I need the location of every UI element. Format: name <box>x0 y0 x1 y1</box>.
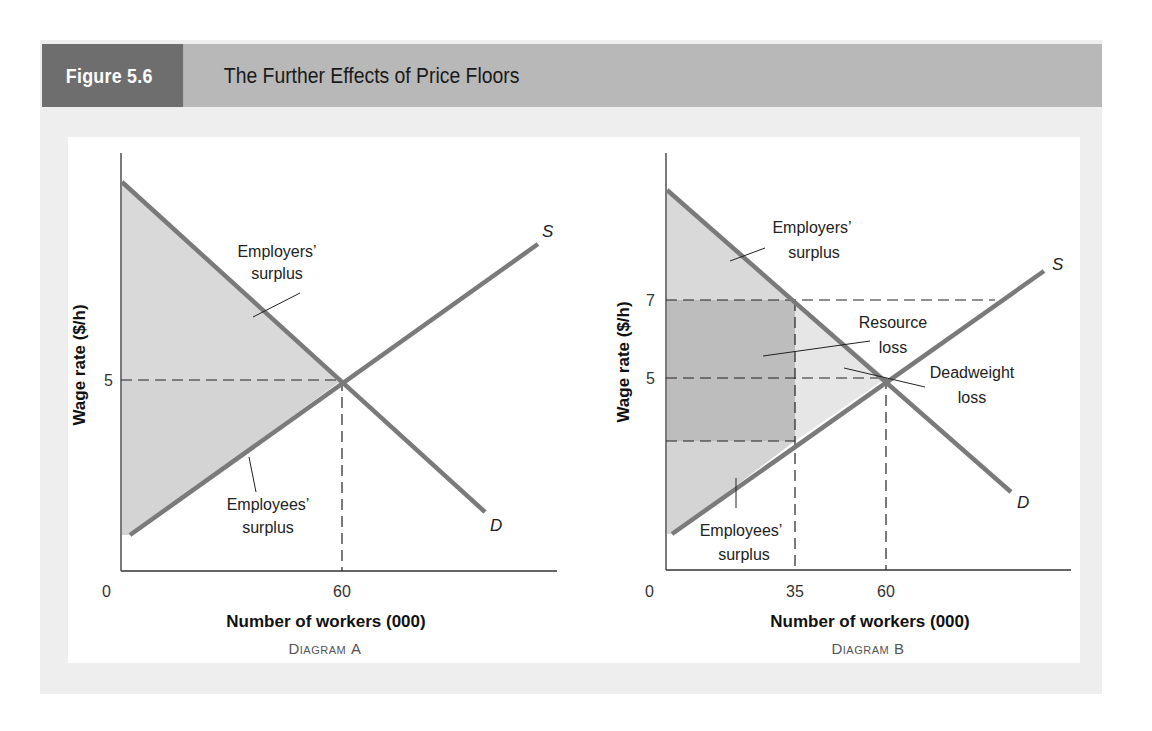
employers-label-2: surplus <box>251 265 303 282</box>
employers-label-1: Employers’ <box>237 243 316 260</box>
demand-label: D <box>490 516 502 535</box>
y-tick-5: 5 <box>646 370 655 387</box>
origin-label: 0 <box>102 583 111 600</box>
resource-loss-region <box>667 300 795 441</box>
y-axis-title: Wage rate ($/h) <box>70 304 89 425</box>
chart-canvas: S D Employers’ surplus Employees’ surplu… <box>0 0 1152 731</box>
employers-label-2: surplus <box>788 244 840 261</box>
supply-label: S <box>1052 255 1064 274</box>
employees-label-1: Employees’ <box>700 522 783 539</box>
employees-surplus-region <box>667 441 795 534</box>
deadweight-loss-label-1: Deadweight <box>930 364 1015 381</box>
deadweight-loss-label-2: loss <box>958 389 986 406</box>
employees-label-2: surplus <box>242 519 294 536</box>
y-axis-title: Wage rate ($/h) <box>614 301 633 422</box>
x-axis-title: Number of workers (000) <box>226 612 425 631</box>
x-tick-60: 60 <box>333 583 351 600</box>
y-tick-5: 5 <box>104 372 113 389</box>
resource-loss-label-1: Resource <box>859 314 928 331</box>
demand-label: D <box>1017 493 1029 512</box>
diagram-b: S D Employers’ surplus Resource loss Dea… <box>614 153 1071 657</box>
origin-label: 0 <box>645 583 654 600</box>
diagram-caption: Diagram A <box>288 640 361 657</box>
employees-label-1: Employees’ <box>227 496 310 513</box>
x-tick-60: 60 <box>877 583 895 600</box>
x-tick-35: 35 <box>786 583 804 600</box>
employees-leader <box>249 457 256 492</box>
diagram-caption: Diagram B <box>831 640 904 657</box>
diagram-a: S D Employers’ surplus Employees’ surplu… <box>70 153 557 657</box>
x-axis-title: Number of workers (000) <box>770 612 969 631</box>
employees-label-2: surplus <box>718 546 770 563</box>
y-tick-7: 7 <box>646 292 655 309</box>
resource-loss-label-2: loss <box>879 339 907 356</box>
employers-label-1: Employers’ <box>772 219 851 236</box>
supply-label: S <box>542 222 554 241</box>
